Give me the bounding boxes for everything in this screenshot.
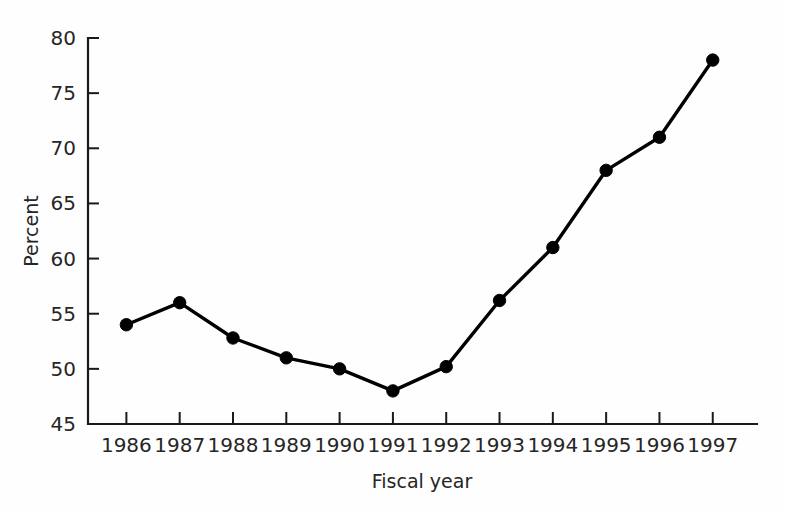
data-point-marker	[280, 352, 292, 364]
x-tick-label: 1996	[634, 433, 685, 457]
y-tick-label: 60	[51, 247, 76, 271]
x-tick-label: 1989	[261, 433, 312, 457]
line-chart: 4550556065707580 19861987198819891990199…	[0, 0, 785, 510]
y-tick-label: 80	[51, 26, 76, 50]
x-tick-label: 1988	[208, 433, 259, 457]
x-tick-label: 1990	[314, 433, 365, 457]
y-tick-label: 75	[51, 81, 76, 105]
data-point-marker	[653, 131, 665, 143]
data-point-marker	[493, 294, 505, 306]
x-tick-label: 1995	[581, 433, 632, 457]
y-axis-title: Percent	[20, 195, 42, 267]
x-tick-label: 1991	[367, 433, 418, 457]
data-point-marker	[173, 296, 185, 308]
data-point-marker	[387, 385, 399, 397]
x-tick-label: 1987	[154, 433, 205, 457]
y-tick-label: 65	[51, 191, 76, 215]
x-axis-title: Fiscal year	[372, 470, 473, 492]
y-tick-label: 45	[51, 412, 76, 436]
chart-canvas: 4550556065707580 19861987198819891990199…	[0, 0, 785, 510]
data-point-marker	[547, 241, 559, 253]
y-tick-label: 50	[51, 357, 76, 381]
y-tick-label: 70	[51, 136, 76, 160]
x-tick-label: 1993	[474, 433, 525, 457]
data-point-marker	[707, 54, 719, 66]
x-tick-label: 1994	[527, 433, 578, 457]
x-tick-label: 1997	[687, 433, 738, 457]
data-point-marker	[333, 363, 345, 375]
y-tick-label: 55	[51, 302, 76, 326]
data-point-marker	[600, 164, 612, 176]
data-point-marker	[440, 360, 452, 372]
data-point-marker	[120, 319, 132, 331]
x-tick-label: 1986	[101, 433, 152, 457]
x-tick-label: 1992	[421, 433, 472, 457]
data-point-marker	[227, 332, 239, 344]
